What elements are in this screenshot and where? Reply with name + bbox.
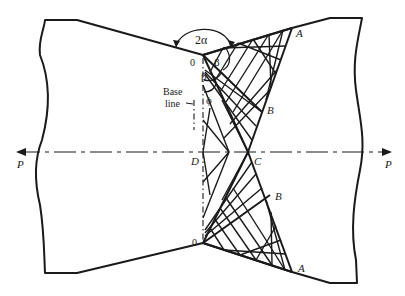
point-O-bottom-label: 0 [192, 237, 197, 248]
force-P-right-label: P [384, 158, 392, 170]
phi-label: ϕ [206, 94, 212, 106]
lower-slip-field [203, 152, 292, 272]
body-outline [36, 18, 363, 283]
notch-angle-label: 2α [195, 33, 208, 47]
force-P-left-label: P [16, 158, 24, 170]
base-line-pointer [186, 103, 193, 104]
base-line-label-1: Base [163, 86, 183, 97]
beta-lower-label: β [201, 70, 207, 82]
point-B-bottom-label: B [275, 190, 282, 202]
point-A-bottom-label: A [297, 262, 305, 274]
point-D-label: D [190, 155, 199, 167]
left-arrowhead-icon [16, 148, 26, 156]
point-O-top-label: 0 [190, 57, 195, 68]
slip-line-field-diagram: 2α 0 β β ϕ Base line A B D C B 0 A P P [0, 0, 405, 296]
beta-upper-label: β [214, 56, 220, 68]
point-A-top-label: A [295, 27, 303, 39]
upper-slip-field [203, 28, 292, 152]
point-B-top-label: B [267, 104, 274, 116]
point-C-label: C [254, 155, 262, 167]
base-line-label-2: line [165, 98, 181, 109]
right-arrowhead-icon [382, 148, 392, 156]
